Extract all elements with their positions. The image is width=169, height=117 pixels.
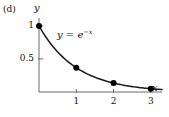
data-point [36,23,42,29]
data-points [36,23,154,92]
data-curve [39,26,162,90]
axis-ticks [38,26,151,93]
plot-area [0,0,169,117]
data-point [111,80,117,86]
data-point [73,65,79,71]
data-point [148,86,154,92]
figure-panel: (d) y x y = e−x 1 0.5 1 2 3 [0,0,169,117]
axes [39,18,162,92]
